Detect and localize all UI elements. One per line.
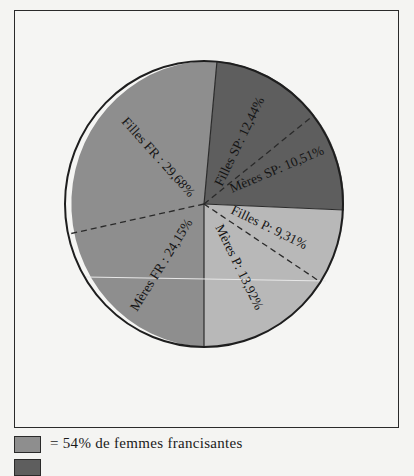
slice-sp [204,61,344,210]
legend-swatch-fr [14,436,41,453]
legend-swatch-sp [14,459,41,476]
legend-text: = 54% de femmes francisantes [50,435,243,452]
